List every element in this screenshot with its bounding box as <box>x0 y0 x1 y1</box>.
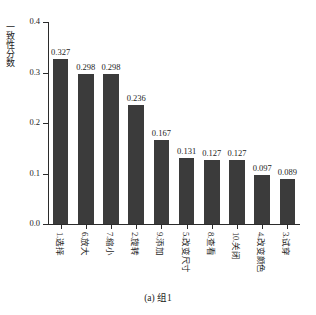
bar-value-label: 0.236 <box>127 93 146 104</box>
x-axis-tick <box>237 224 238 229</box>
bar <box>254 175 270 224</box>
bar <box>229 160 245 224</box>
figure-caption: (a) 组1 <box>0 292 316 305</box>
bar-chart-plot-area: 0.00.10.20.30.4 0.3270.2980.2980.2360.16… <box>48 22 300 224</box>
bar-value-label: 0.131 <box>177 146 196 157</box>
bar <box>53 59 69 224</box>
figure-container: 一致性分数 0.00.10.20.30.4 0.3270.2980.2980.2… <box>0 0 316 315</box>
scan-top-artifact <box>0 0 316 10</box>
x-axis-tick <box>136 224 137 229</box>
y-axis-tick-label: 0.0 <box>29 217 40 230</box>
bar-value-label: 0.298 <box>101 62 120 73</box>
bar-value-label: 0.327 <box>51 47 70 58</box>
x-axis-category-label: 7.缩小 <box>104 232 115 256</box>
y-axis-tick-label: 0.1 <box>29 167 40 180</box>
y-axis-tick-label: 0.2 <box>29 116 40 129</box>
y-axis-tick-label: 0.3 <box>29 66 40 79</box>
bar-value-label: 0.298 <box>76 62 95 73</box>
x-axis-category-label: 10.关闭 <box>230 232 241 260</box>
bar <box>154 140 170 224</box>
bar <box>103 74 119 224</box>
x-axis-category-label: 3.试穿 <box>280 232 291 256</box>
x-axis-category-label: 1.选择 <box>54 232 65 256</box>
bar-value-label: 0.167 <box>152 128 171 139</box>
x-axis-tick <box>111 224 112 229</box>
x-axis-tick <box>161 224 162 229</box>
x-axis-tick <box>187 224 188 229</box>
bar-value-label: 0.127 <box>202 148 221 159</box>
y-axis-tick: 0.3 <box>43 73 48 74</box>
x-axis-category-label: 6.放大 <box>79 232 90 256</box>
y-axis-tick: 0.0 <box>43 224 48 225</box>
y-axis-tick: 0.4 <box>43 22 48 23</box>
y-axis-tick-label: 0.4 <box>29 15 40 28</box>
x-axis-category-label: 9.添加 <box>154 232 165 256</box>
x-axis-category-label: 2.旋转 <box>129 232 140 256</box>
x-axis-tick <box>262 224 263 229</box>
x-axis-tick <box>287 224 288 229</box>
x-axis-category-label: 5.改变尺寸 <box>180 232 191 273</box>
bar-value-label: 0.127 <box>227 148 246 159</box>
bar <box>204 160 220 224</box>
bar <box>128 105 144 224</box>
bar-value-label: 0.089 <box>278 167 297 178</box>
y-axis-title: 一致性分数 <box>3 22 16 112</box>
x-axis-category-label: 4.改变颜色 <box>255 232 266 273</box>
y-axis-tick: 0.2 <box>43 123 48 124</box>
x-axis-category-label: 8.查看 <box>205 232 216 256</box>
bar-value-label: 0.097 <box>253 163 272 174</box>
y-axis-line <box>48 22 49 224</box>
x-axis-tick <box>61 224 62 229</box>
bar <box>280 179 296 224</box>
x-axis-tick <box>212 224 213 229</box>
y-axis-tick: 0.1 <box>43 174 48 175</box>
bar <box>179 158 195 224</box>
bar <box>78 74 94 224</box>
x-axis-tick <box>86 224 87 229</box>
